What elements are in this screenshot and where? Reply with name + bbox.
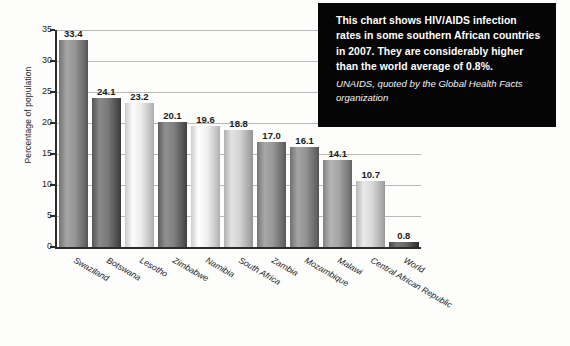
bar: 19.6 (191, 126, 221, 248)
y-tick-label: 0 (47, 241, 52, 251)
bar: 17.0 (257, 142, 287, 247)
bar-value-label: 18.8 (229, 118, 248, 129)
y-tick-label: 5 (47, 210, 52, 220)
bar: 14.1 (323, 160, 353, 247)
chart-page: Percentage of population 05101520253035 … (0, 0, 570, 346)
bar-value-label: 10.7 (361, 169, 380, 180)
bar: 24.1 (92, 98, 122, 247)
bar-value-label: 33.4 (64, 28, 83, 39)
y-axis-line (55, 30, 57, 247)
y-tick-label: 25 (42, 86, 52, 96)
x-category-label: Lesotho (138, 255, 169, 279)
bar-value-label: 20.1 (163, 110, 182, 121)
y-tick-label: 10 (42, 179, 52, 189)
bar-value-label: 17.0 (262, 130, 281, 141)
y-axis-label: Percentage of population (23, 25, 33, 205)
bar-value-label: 16.1 (295, 135, 314, 146)
callout-main-text: This chart shows HIV/AIDS infection rate… (336, 13, 542, 75)
y-tick-label: 15 (42, 148, 52, 158)
x-category-label: Zimbabwe (171, 255, 210, 283)
x-axis-line (55, 247, 421, 249)
bar: 20.1 (158, 122, 188, 247)
x-category-label: Botswana (105, 255, 143, 283)
y-tick-label: 20 (42, 117, 52, 127)
x-category-label: World (402, 255, 426, 275)
callout-source-text: UNAIDS, quoted by the Global Health Fact… (336, 77, 542, 105)
y-tick-label: 30 (42, 55, 52, 65)
bar-value-label: 0.8 (397, 230, 410, 241)
callout-box: This chart shows HIV/AIDS infection rate… (318, 3, 556, 127)
bar-value-label: 14.1 (328, 148, 347, 159)
bar-value-label: 23.2 (130, 91, 149, 102)
bar: 18.8 (224, 130, 254, 247)
bar: 33.4 (59, 40, 89, 247)
bar-value-label: 19.6 (196, 114, 215, 125)
bar-value-label: 24.1 (97, 86, 116, 97)
x-category-label: Swaziland (72, 255, 111, 283)
bar: 16.1 (290, 147, 320, 247)
bar: 23.2 (125, 103, 155, 247)
bar: 10.7 (356, 181, 386, 247)
y-tick-label: 35 (42, 24, 52, 34)
bar: 0.8 (389, 242, 419, 247)
